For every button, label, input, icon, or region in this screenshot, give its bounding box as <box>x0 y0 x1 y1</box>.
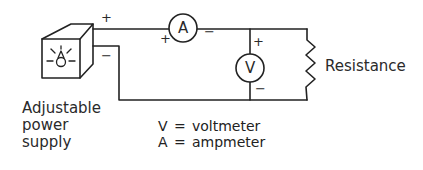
legend-eq: = <box>174 134 192 150</box>
legend-eq: = <box>174 118 192 134</box>
legend: V = voltmeter A = ampmeter <box>158 118 265 150</box>
supply-plus-sign: + <box>101 11 112 24</box>
ammeter-plus-sign: + <box>160 32 171 45</box>
power-supply-box <box>42 24 93 78</box>
voltmeter-symbol: V <box>245 60 255 76</box>
legend-symbol: A <box>158 134 174 150</box>
ammeter-symbol: A <box>178 20 188 36</box>
resistor-icon <box>306 29 315 100</box>
power-supply-label: Adjustable power supply <box>22 100 101 151</box>
power-supply-label-line: power <box>22 117 101 134</box>
power-supply-label-line: supply <box>22 134 101 151</box>
voltmeter-minus-sign: − <box>255 82 266 95</box>
ammeter-minus-sign: − <box>204 25 215 38</box>
power-supply-label-line: Adjustable <box>22 100 101 117</box>
legend-item: V = voltmeter <box>158 118 265 134</box>
wire-bottom <box>93 46 307 100</box>
supply-minus-sign: − <box>101 49 112 62</box>
voltmeter-plus-sign: + <box>253 35 264 48</box>
legend-meaning: voltmeter <box>192 118 260 134</box>
resistance-label: Resistance <box>325 58 406 74</box>
legend-symbol: V <box>158 118 174 134</box>
legend-item: A = ampmeter <box>158 134 265 150</box>
legend-meaning: ampmeter <box>192 134 265 150</box>
